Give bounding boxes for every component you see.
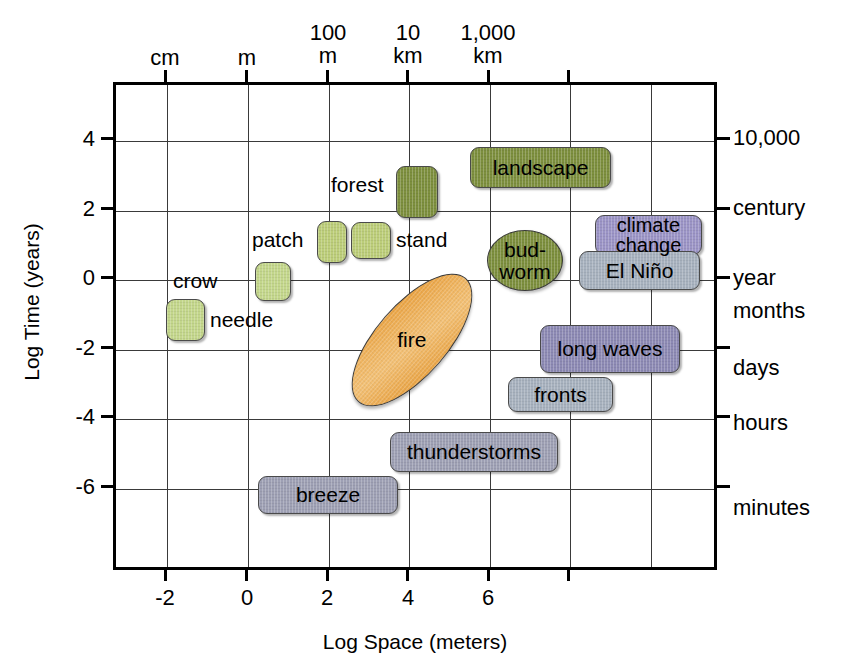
y-tick-0 [101,276,113,279]
x-top-tick-10km [406,70,409,82]
item-el-nino: El Niño [579,251,700,290]
y-right-label-hours: hours [733,410,788,436]
item-el-nino-label: El Niño [606,260,674,281]
item-climate-change: climate change [595,215,702,255]
x-tick-label-4: 4 [373,585,443,611]
y-tick-2 [101,207,113,210]
item-patch-label: patch [252,228,303,252]
x-top-label-100m-line2: m [283,45,373,68]
x-top-label-10km-line2: km [363,45,453,68]
item-fire-label: fire [397,329,426,351]
item-fronts: fronts [508,377,613,412]
y-tick-label--2: -2 [25,335,95,361]
x-axis-title: Log Space (meters) [113,630,717,654]
y-right-tick-days [717,346,730,349]
item-thunderstorms-label: thunderstorms [407,441,541,462]
y-right-label-minutes: minutes [733,495,810,521]
x-top-tick-1000km [487,70,490,82]
y-tick--4 [101,415,113,418]
item-climate-change-label-line1: climate [617,214,680,236]
item-long-waves: long waves [540,325,680,373]
gridline-y-4 [116,141,714,142]
item-crow [255,262,291,301]
x-tick-0 [245,570,248,581]
x-tick-label-2: 2 [292,585,362,611]
plot-area: needle crow patch stand forest landscape… [113,82,717,570]
x-top-label-10km: 10 km [363,22,453,68]
y-axis-title: Log Time (years) [20,192,44,412]
x-top-label-m: m [202,22,292,70]
item-needle-label: needle [210,308,273,332]
x-top-label-1000km: 1,000 km [443,22,533,68]
y-right-label-10000: 10,000 [733,125,800,151]
x-tick-label--2: -2 [130,585,200,611]
y-right-label-days: days [733,355,779,381]
x-top-label-m-text: m [202,47,292,70]
x-top-label-1000km-line1: 1,000 [443,22,533,45]
item-stand [351,222,391,259]
x-tick-2 [326,570,329,581]
item-budworm: bud- worm [487,230,563,291]
x-tick-label-6: 6 [453,585,523,611]
x-top-label-cm-text: cm [120,47,210,70]
y-tick-label--4: -4 [25,404,95,430]
y-tick-label-2: 2 [25,196,95,222]
x-tick-label-0: 0 [212,585,282,611]
y-right-tick-hours [717,415,730,418]
item-landscape-label: landscape [493,157,589,178]
y-tick--6 [101,485,113,488]
item-breeze-label: breeze [296,484,360,505]
item-forest-label: forest [331,173,384,197]
x-tick--2 [164,570,167,581]
x-top-tick-extra [567,70,570,82]
x-top-tick-m [245,70,248,82]
item-stand-label: stand [396,228,447,252]
x-top-tick-cm [164,70,167,82]
y-tick-label-0: 0 [25,265,95,291]
x-top-label-cm: cm [120,22,210,70]
figure-root: Log Time (years) Log Space (meters) cm m… [0,0,845,672]
y-right-tick-10000 [717,137,730,140]
item-budworm-label: bud- worm [499,239,550,283]
x-top-label-10km-line1: 10 [363,22,453,45]
y-right-tick-minutes [717,485,730,488]
x-tick-8 [567,570,570,581]
y-right-label-months: months [733,298,805,324]
y-tick-label-4: 4 [25,126,95,152]
item-budworm-label-line1: bud- [504,238,546,261]
y-tick-label--6: -6 [25,474,95,500]
item-crow-label: crow [173,269,217,293]
item-thunderstorms: thunderstorms [390,432,558,472]
item-climate-change-label: climate change [616,215,682,256]
y-right-label-year: year [733,265,776,291]
gridline-y--6 [116,489,714,490]
item-landscape: landscape [470,147,611,188]
y-right-tick-year [717,276,730,279]
x-top-tick-100m [326,70,329,82]
y-tick--2 [101,346,113,349]
item-long-waves-label: long waves [557,338,662,359]
x-top-label-1000km-line2: km [443,45,533,68]
item-climate-change-label-line2: change [616,234,682,256]
item-fronts-label: fronts [534,384,587,405]
y-right-tick-century [717,207,730,210]
x-top-label-100m-line1: 100 [283,22,373,45]
item-patch [317,221,347,263]
x-tick-4 [406,570,409,581]
y-tick-4 [101,137,113,140]
item-breeze: breeze [258,476,398,514]
gridline-y--4 [116,419,714,420]
x-top-label-100m: 100 m [283,22,373,68]
x-tick-6 [487,570,490,581]
item-budworm-label-line2: worm [499,260,550,283]
item-forest [396,166,438,218]
item-needle [166,299,205,341]
y-right-label-century: century [733,195,805,221]
